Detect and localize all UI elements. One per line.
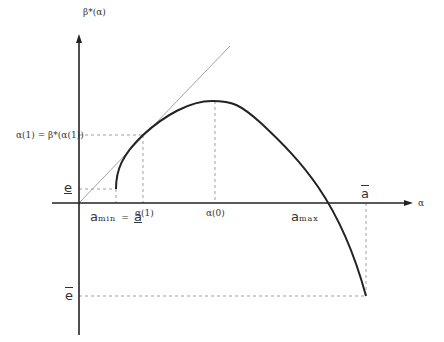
e-underline-label: e bbox=[64, 181, 72, 194]
alpha1-equality-label: α(1) = β*(α(1)) bbox=[16, 131, 84, 140]
a-bar-label: a bbox=[361, 187, 369, 200]
x-axis-label: α bbox=[418, 199, 424, 208]
e-bar-label: e bbox=[65, 289, 73, 302]
a-min-equals: = bbox=[121, 213, 129, 223]
y-axis-label: β*(α) bbox=[83, 8, 106, 17]
x-axis-arrow-icon bbox=[404, 200, 413, 206]
alpha1-tick-label: α(1) bbox=[135, 209, 154, 218]
a-max-sub: max bbox=[299, 214, 319, 223]
a-min-main: a bbox=[90, 209, 98, 224]
y-axis-arrow-icon bbox=[76, 34, 82, 43]
guide-lines bbox=[79, 101, 366, 296]
alpha0-tick-label: α(0) bbox=[206, 209, 225, 218]
a-min-sub: min bbox=[98, 214, 116, 223]
beta-star-curve bbox=[116, 101, 366, 296]
a-max-main: a bbox=[291, 209, 299, 224]
a-max-label: amax bbox=[291, 208, 319, 224]
